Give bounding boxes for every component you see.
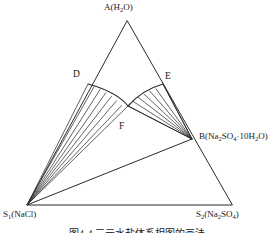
- ternary-diagram-svg: [0, 0, 274, 233]
- tie-line: [27, 89, 100, 205]
- vertex-label-s1: S1(NaCl): [3, 210, 36, 219]
- boundary-s1-to-b: [27, 139, 192, 205]
- vertex-label-a: A(H2O): [104, 3, 133, 12]
- boundary-cusp-to-b: [128, 106, 192, 139]
- point-label-d: D: [73, 70, 80, 80]
- point-label-b: B(Na2SO4·10H2O): [199, 132, 268, 141]
- tie-line: [27, 86, 94, 205]
- vertex-label-s2: S2(Na2SO4): [196, 210, 239, 219]
- tie-line: [27, 105, 122, 205]
- point-label-e: E: [165, 72, 171, 82]
- tie-line-fan-left: [27, 84, 128, 205]
- tie-line: [27, 106, 128, 205]
- tie-line: [138, 97, 192, 139]
- phase-diagram-figure: A(H2O) B(Na2SO4·10H2O) S1(NaCl) S2(Na2SO…: [0, 0, 274, 233]
- triangle-outline: [27, 21, 232, 205]
- figure-caption: 图4-4 三元水盐体系相图的画法: [0, 225, 274, 233]
- point-label-f: F: [119, 122, 124, 132]
- tie-line: [27, 92, 106, 205]
- tie-line: [27, 96, 112, 205]
- tie-line: [144, 94, 192, 139]
- tie-line: [156, 89, 192, 140]
